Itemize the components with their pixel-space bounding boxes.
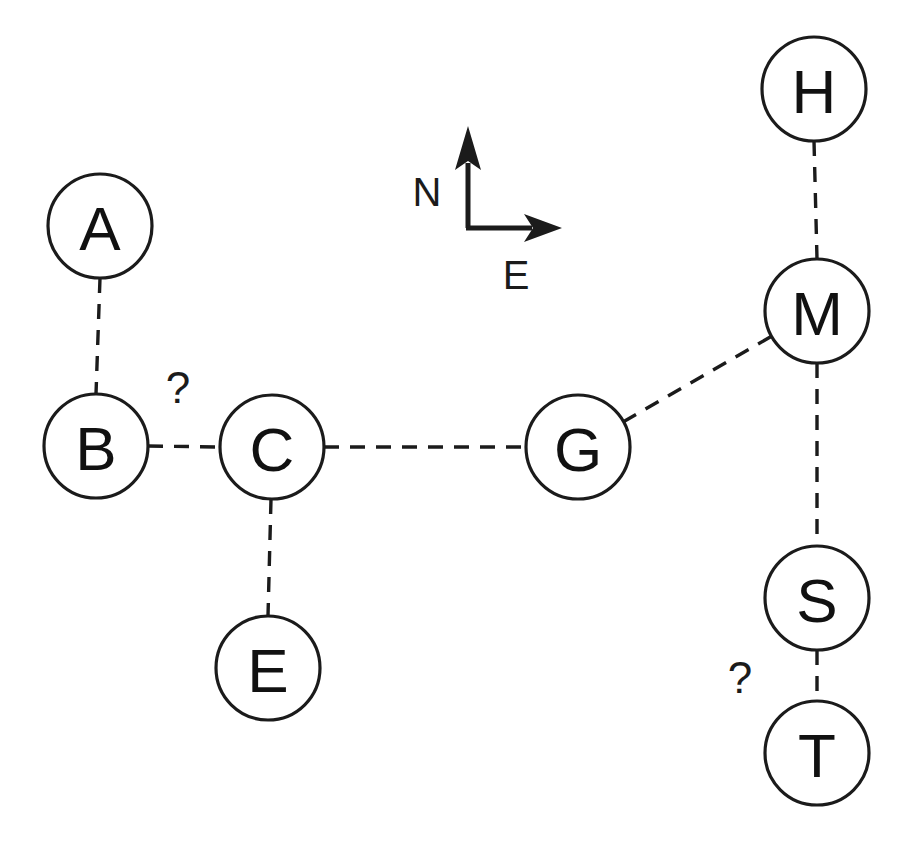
compass-rose: N E <box>413 126 562 297</box>
node-g[interactable]: G <box>526 395 630 499</box>
edge-a-b <box>96 278 100 394</box>
compass-north-label: N <box>413 170 442 214</box>
node-b-label: B <box>75 414 116 483</box>
edge-h-m <box>814 141 817 259</box>
node-network-diagram: ? ? A B C E G <box>0 0 915 846</box>
node-g-label: G <box>554 415 602 484</box>
node-m[interactable]: M <box>765 259 869 363</box>
node-a[interactable]: A <box>48 174 152 278</box>
edge-group <box>96 141 817 701</box>
diagram-canvas: ? ? A B C E G <box>0 0 915 846</box>
node-a-label: A <box>79 194 121 263</box>
node-c-label: C <box>250 415 295 484</box>
node-e[interactable]: E <box>216 616 320 720</box>
node-c[interactable]: C <box>220 395 324 499</box>
node-t[interactable]: T <box>765 701 869 805</box>
edge-label-st: ? <box>728 653 752 702</box>
node-m-label: M <box>791 279 843 348</box>
node-b[interactable]: B <box>44 394 148 498</box>
node-s-label: S <box>796 566 837 635</box>
node-e-label: E <box>247 636 288 705</box>
edge-label-bc: ? <box>166 363 190 412</box>
node-h[interactable]: H <box>762 37 866 141</box>
node-h-label: H <box>792 57 837 126</box>
node-t-label: T <box>798 721 836 790</box>
compass-east-label: E <box>503 253 530 297</box>
edge-b-c <box>148 446 220 447</box>
edge-c-e <box>268 499 271 616</box>
edge-g-m <box>623 336 772 422</box>
node-s[interactable]: S <box>765 546 869 650</box>
